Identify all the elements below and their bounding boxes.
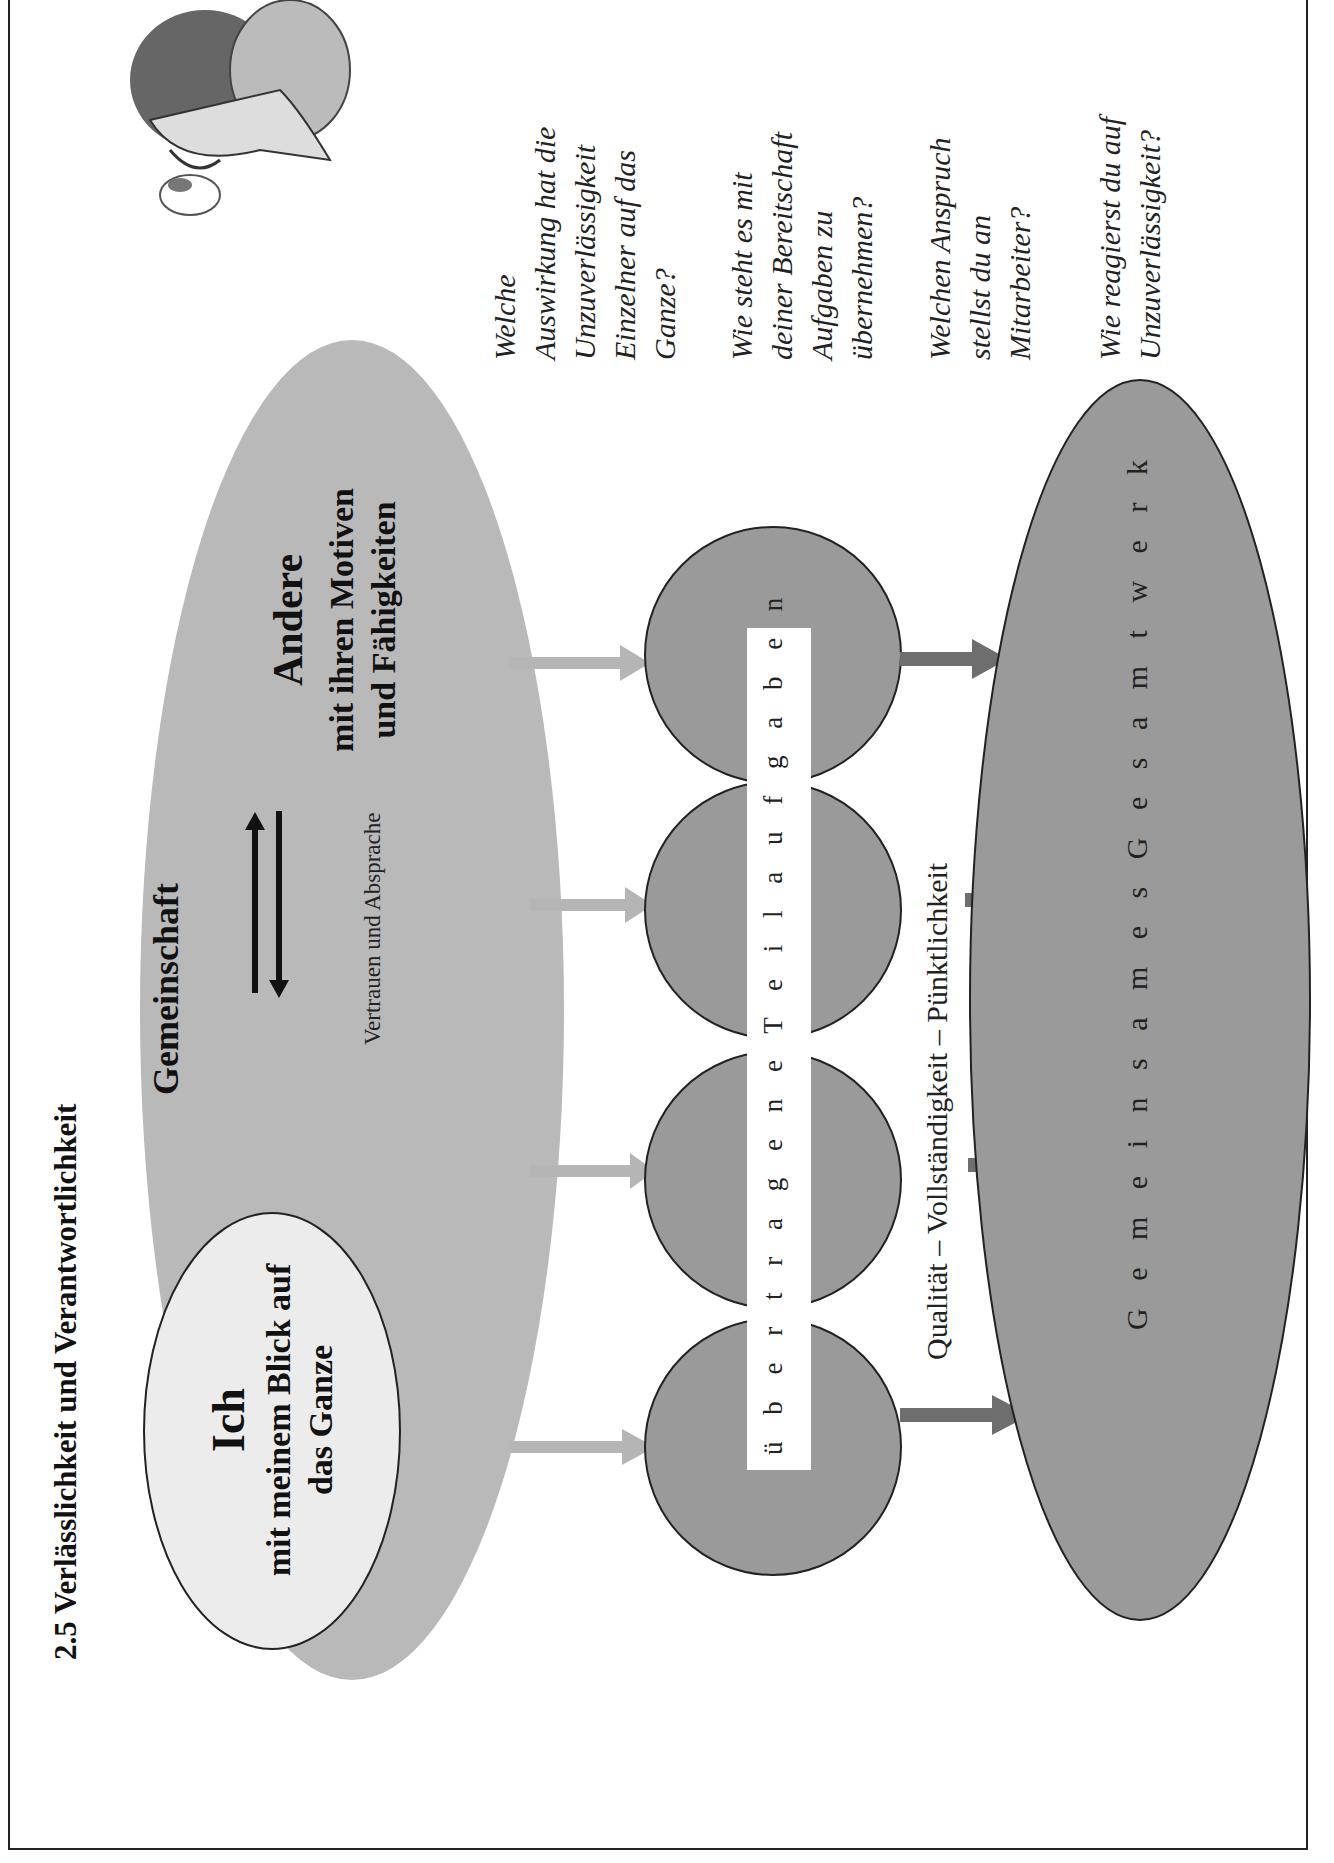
self-line2: das Ganze xyxy=(300,1240,342,1600)
self-line1: mit meinem Blick auf xyxy=(258,1240,300,1600)
question-3: Welchen Anspruch stellst du an Mitarbeit… xyxy=(920,138,1040,360)
result-label: G e m e i n s a m e s G e s a m t w e r … xyxy=(1120,450,1154,1330)
others-line2: und Fähigkeiten xyxy=(363,430,405,810)
criteria-label: Qualität – Vollständigkeit – Pünktlichke… xyxy=(920,863,954,1360)
community-label: Gemeinschaft xyxy=(145,883,187,1095)
self-heading: Ich xyxy=(200,1240,258,1600)
relation-label: Vertrauen und Absprache xyxy=(360,813,386,1045)
illustration-man-butterfly-icon xyxy=(130,0,350,215)
question-4: Wie reagierst du auf Unzuverlässigkeit? xyxy=(1090,117,1170,360)
self-text: Ich mit meinem Blick auf das Ganze xyxy=(200,1240,342,1600)
tasks-label: ü b e r t r a g e n e T e i l a u f g a … xyxy=(758,588,789,1455)
question-2: Wie steht es mit deiner Bereitschaft Auf… xyxy=(722,132,882,360)
page-title: 2.5 Verlässlichkeit und Verantwortlichke… xyxy=(48,1104,84,1660)
question-1: Welche Auswirkung hat die Unzuverlässigk… xyxy=(485,127,685,360)
others-heading: Andere xyxy=(255,430,321,810)
others-text: Andere mit ihren Motiven und Fähigkeiten xyxy=(255,430,405,810)
others-line1: mit ihren Motiven xyxy=(321,430,363,810)
